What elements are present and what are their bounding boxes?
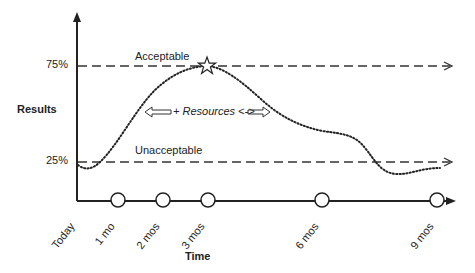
y-tick-75: 75% xyxy=(46,58,68,70)
milestone-circle-9mos xyxy=(430,193,444,207)
results-curve xyxy=(78,66,440,174)
x-axis-label: Time xyxy=(185,250,210,262)
milestone-circle-3mos xyxy=(201,193,215,207)
milestone-circle-2mos xyxy=(156,193,170,207)
milestone-circle-1mo xyxy=(111,193,125,207)
x-axis-arrow-icon xyxy=(446,197,456,205)
acceptable-label: Acceptable xyxy=(135,50,189,62)
peak-star-icon xyxy=(198,57,215,73)
left-block-arrow-icon xyxy=(145,107,171,117)
y-axis-label: Results xyxy=(17,103,57,115)
y-axis-arrow-icon xyxy=(73,12,81,22)
resources-annotation: + Resources <-> xyxy=(173,105,255,117)
y-tick-25: 25% xyxy=(46,154,68,166)
unacceptable-label: Unacceptable xyxy=(135,144,202,156)
milestone-circle-6mos xyxy=(315,193,329,207)
